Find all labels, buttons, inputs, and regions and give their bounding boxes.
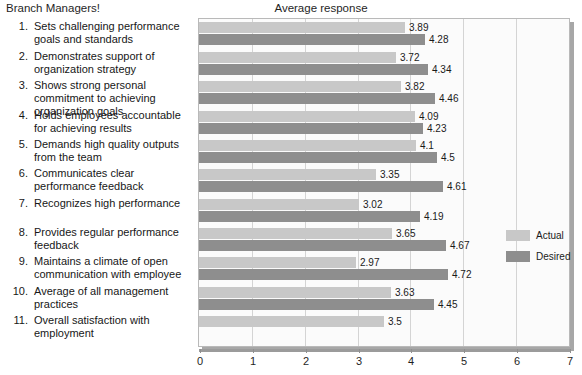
category-text: Provides regular performance feedback <box>34 226 198 252</box>
category-label-row: 11.Overall satisfaction with employment <box>0 314 198 340</box>
category-label-row: 8.Provides regular performance feedback <box>0 226 198 252</box>
bar-actual <box>199 52 396 63</box>
x-tick <box>411 349 412 353</box>
category-number: 4. <box>0 109 34 122</box>
category-text: Communicates clear performance feedback <box>34 167 198 193</box>
category-text: Holds employees accountable for achievin… <box>34 109 198 135</box>
bar-value-label: 4.5 <box>438 152 455 163</box>
category-number: 8. <box>0 226 34 239</box>
bar-desired <box>199 211 420 222</box>
bar-value-label: 4.72 <box>449 269 471 280</box>
bar-value-label: 3.72 <box>397 52 419 63</box>
x-tick <box>253 349 254 353</box>
x-tick-label: 5 <box>461 355 467 367</box>
x-tick-label: 6 <box>514 355 520 367</box>
category-text: Demands high quality outputs from the te… <box>34 138 198 164</box>
x-tick-label: 1 <box>250 355 256 367</box>
bar-desired <box>199 299 434 310</box>
legend-item: Actual <box>506 230 576 241</box>
bar-desired <box>199 269 448 280</box>
legend: ActualDesired <box>506 230 576 272</box>
bar-desired <box>199 181 443 192</box>
legend-label: Actual <box>536 230 564 241</box>
category-label-column: 1.Sets challenging performance goals and… <box>0 18 198 349</box>
bar-value-label: 4.19 <box>421 211 443 222</box>
category-number: 10. <box>0 285 34 298</box>
category-text: Sets challenging performance goals and s… <box>34 20 198 46</box>
category-text: Recognizes high performance <box>34 197 198 210</box>
category-text: Maintains a climate of open communicatio… <box>34 255 198 281</box>
bar-desired <box>199 240 446 251</box>
bar-value-label: 3.65 <box>393 228 415 239</box>
bar-actual <box>199 316 384 327</box>
x-tick <box>359 349 360 353</box>
bar-actual <box>199 22 405 33</box>
category-label-row: 1.Sets challenging performance goals and… <box>0 20 198 46</box>
category-number: 5. <box>0 138 34 151</box>
bar-value-label: 4.28 <box>426 34 448 45</box>
legend-swatch-desired <box>506 251 530 262</box>
legend-swatch-actual <box>506 230 530 241</box>
x-tick-label: 4 <box>408 355 414 367</box>
x-tick <box>464 349 465 353</box>
x-tick-label: 2 <box>303 355 309 367</box>
category-label-row: 7.Recognizes high performance <box>0 197 198 210</box>
bar-desired <box>199 64 428 75</box>
gridline <box>569 19 570 346</box>
x-tick <box>306 349 307 353</box>
category-number: 1. <box>0 20 34 33</box>
bar-desired <box>199 93 435 104</box>
bar-value-label: 3.82 <box>402 81 424 92</box>
bar-actual <box>199 228 392 239</box>
category-label-row: 10.Average of all management practices <box>0 285 198 311</box>
bar-actual <box>199 111 415 122</box>
bar-value-label: 2.97 <box>357 257 379 268</box>
category-label-row: 9.Maintains a climate of open communicat… <box>0 255 198 281</box>
category-text: Overall satisfaction with employment <box>34 314 198 340</box>
bar-actual <box>199 199 359 210</box>
category-number: 11. <box>0 314 34 327</box>
bar-actual <box>199 140 416 151</box>
bar-value-label: 4.34 <box>429 64 451 75</box>
category-label-row: 4.Holds employees accountable for achiev… <box>0 109 198 135</box>
category-number: 3. <box>0 79 34 92</box>
category-number: 6. <box>0 167 34 180</box>
x-axis-line <box>199 349 570 352</box>
x-tick <box>570 349 571 353</box>
gridline <box>516 19 517 346</box>
plot-area: 3.893.723.824.094.13.353.023.652.973.633… <box>198 18 570 347</box>
bar-desired <box>199 152 437 163</box>
bar-value-label: 4.46 <box>436 93 458 104</box>
bar-value-label: 4.1 <box>417 140 434 151</box>
x-tick <box>517 349 518 353</box>
bar-value-label: 4.23 <box>424 123 446 134</box>
bar-value-label: 3.02 <box>360 199 382 210</box>
bar-actual <box>199 257 356 268</box>
bar-desired <box>199 34 425 45</box>
category-label-row: 6.Communicates clear performance feedbac… <box>0 167 198 193</box>
chart-page: Branch Managers! Average response 1.Sets… <box>0 0 582 375</box>
bar-value-label: 4.67 <box>447 240 469 251</box>
chart-title: Average response <box>0 2 582 14</box>
category-number: 9. <box>0 255 34 268</box>
bar-value-label: 4.09 <box>416 111 438 122</box>
x-tick-label: 0 <box>197 355 203 367</box>
bar-value-label: 3.5 <box>385 316 402 327</box>
bar-actual <box>199 169 376 180</box>
bar-value-label: 3.63 <box>392 287 414 298</box>
bar-value-label: 4.45 <box>435 299 457 310</box>
x-tick-label: 7 <box>567 355 573 367</box>
x-tick-label: 3 <box>356 355 362 367</box>
category-label-row: 5.Demands high quality outputs from the … <box>0 138 198 164</box>
category-number: 7. <box>0 197 34 210</box>
category-number: 2. <box>0 50 34 63</box>
x-tick <box>200 349 201 353</box>
category-text: Average of all management practices <box>34 285 198 311</box>
legend-item: Desired <box>506 251 576 262</box>
bar-value-label: 3.89 <box>406 22 428 33</box>
bar-actual <box>199 81 401 92</box>
legend-label: Desired <box>536 251 570 262</box>
bar-value-label: 3.35 <box>377 169 399 180</box>
category-label-row: 2.Demonstrates support of organization s… <box>0 50 198 76</box>
bar-desired <box>199 123 423 134</box>
